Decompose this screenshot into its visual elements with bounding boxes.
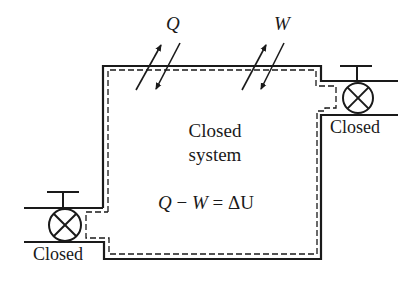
- work-out-arrow-icon: [242, 45, 266, 90]
- heat-label: Q: [166, 14, 180, 33]
- system-title-line-1: Closed: [189, 121, 242, 140]
- diagram-graphics: [0, 0, 420, 283]
- closed-system-diagram: Q W Closed system Q − W = ΔU Closed Clos…: [0, 0, 420, 283]
- equation-equals: =: [213, 192, 224, 213]
- equation-q: Q: [158, 192, 172, 213]
- equation-delta-u: ΔU: [228, 192, 254, 213]
- left-valve-label: Closed: [33, 245, 83, 263]
- energy-equation: Q − W = ΔU: [158, 193, 254, 212]
- left-valve-icon[interactable]: [47, 192, 81, 241]
- equation-w: W: [192, 192, 208, 213]
- delta-u-text: ΔU: [228, 192, 254, 213]
- equation-minus: −: [176, 192, 187, 213]
- system-title-line-2: system: [189, 145, 242, 164]
- heat-out-arrow-icon: [136, 45, 161, 90]
- right-valve-icon[interactable]: [340, 66, 373, 113]
- work-label: W: [274, 14, 290, 33]
- right-valve-label: Closed: [330, 118, 380, 136]
